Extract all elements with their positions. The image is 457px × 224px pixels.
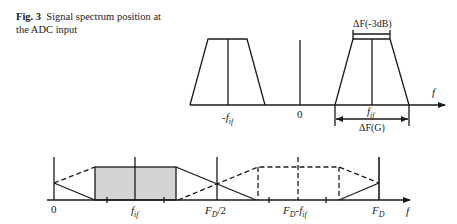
label-fd: FD [371, 204, 385, 219]
dashed-mirror-rise [178, 167, 379, 200]
label-neg-fif: -fif [222, 111, 235, 126]
solid-band-right-slope [176, 167, 256, 200]
solid-band-left-image [54, 183, 95, 200]
solid-band-fd-image [339, 183, 379, 200]
dashed-mirror-left [54, 167, 95, 183]
label-axis-f-bottom: f [406, 205, 411, 217]
label-fif-bottom: fif [131, 204, 140, 219]
label-fd-half: FD/2 [204, 204, 226, 219]
label-bw-3db: ΔF(-3dB) [353, 18, 392, 30]
label-axis-f: f [432, 86, 437, 98]
top-labels: -fif 0 fif f ΔF(-3dB) ΔF(G) [222, 18, 437, 134]
bottom-spectrum [47, 157, 410, 203]
label-fif: fif [367, 105, 376, 120]
label-bw-g: ΔF(G) [359, 122, 385, 134]
spectrum-diagrams: -fif 0 fif f ΔF(-3dB) ΔF(G) 0 fif FD/2 F… [0, 0, 457, 224]
bottom-labels: 0 fif FD/2 FD-fif FD f [51, 203, 411, 219]
label-zero: 0 [297, 108, 303, 120]
label-fd-minus-fif: FD-fif [282, 204, 308, 219]
label-zero-bottom: 0 [51, 203, 57, 215]
